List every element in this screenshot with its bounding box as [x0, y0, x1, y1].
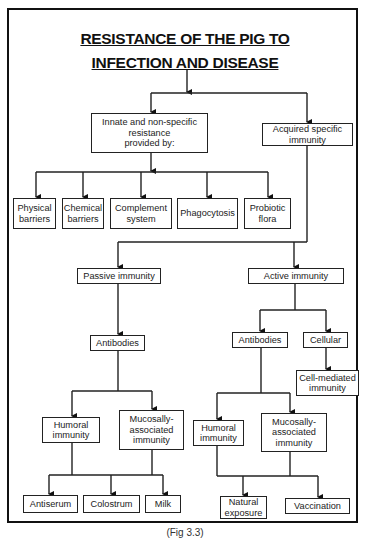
node-probiotic-flora: Probiotic flora — [244, 198, 291, 229]
node-cell-mediated-immunity: Cell-mediated immunity — [296, 370, 359, 396]
node-active-mucosal-immunity: Mucosally- associated immunity — [261, 413, 327, 452]
node-innate-resistance: Innate and non-specific resistance provi… — [91, 113, 208, 153]
node-passive-immunity: Passive immunity — [77, 268, 161, 284]
figure-caption: (Fig 3.3) — [0, 527, 370, 538]
node-cellular: Cellular — [303, 332, 348, 348]
node-colostrum: Colostrum — [83, 495, 140, 513]
node-natural-exposure: Natural exposure — [220, 496, 267, 519]
node-phagocytosis: Phagocytosis — [177, 198, 238, 229]
node-antiserum: Antiserum — [23, 495, 78, 513]
node-active-immunity: Active immunity — [248, 268, 344, 284]
node-milk: Milk — [145, 495, 181, 513]
node-complement-system: Complement system — [110, 198, 172, 229]
node-chemical-barriers: Chemical barriers — [62, 198, 104, 229]
node-passive-mucosal-immunity: Mucosally- associated immunity — [119, 410, 184, 450]
node-vaccination: Vaccination — [285, 498, 350, 514]
node-passive-antibodies: Antibodies — [90, 335, 145, 351]
node-active-antibodies: Antibodies — [232, 332, 288, 348]
node-acquired-immunity: Acquired specific immunity — [262, 123, 353, 146]
node-physical-barriers: Physical barriers — [13, 198, 56, 229]
node-passive-humoral-immunity: Humoral immunity — [42, 417, 100, 443]
node-active-humoral-immunity: Humoral immunity — [193, 420, 244, 446]
